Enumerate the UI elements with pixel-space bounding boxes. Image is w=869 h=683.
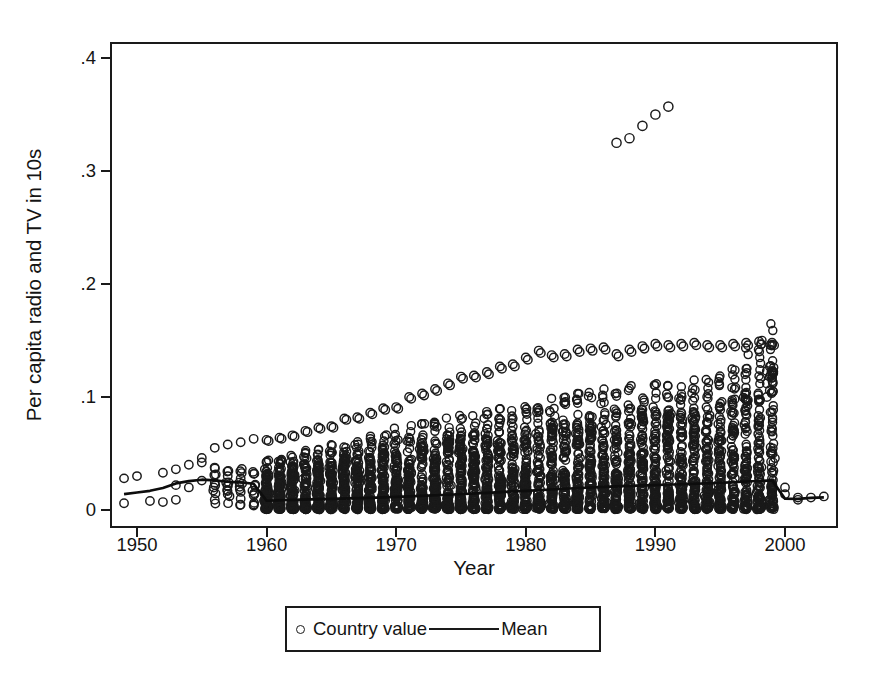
data-point-marker xyxy=(742,338,751,347)
data-point-marker xyxy=(588,347,597,356)
legend-label-country-value: Country value xyxy=(313,618,427,640)
legend-item-mean[interactable]: Mean xyxy=(427,618,547,640)
x-tick-mark xyxy=(136,528,138,537)
x-tick-label: 1980 xyxy=(505,534,546,556)
data-point-marker xyxy=(224,440,232,448)
data-point-marker xyxy=(653,342,662,351)
data-point-marker xyxy=(612,138,621,147)
data-point-marker xyxy=(547,351,556,360)
data-point-marker xyxy=(599,343,608,352)
y-tick-label: .1 xyxy=(50,386,96,408)
data-point-marker xyxy=(120,474,128,482)
data-point-marker xyxy=(485,370,494,379)
x-tick-mark xyxy=(395,528,397,537)
data-point-marker xyxy=(638,121,647,130)
data-point-marker xyxy=(522,353,531,362)
data-point-marker xyxy=(185,483,193,491)
data-point-marker xyxy=(457,372,466,381)
y-tick-mark xyxy=(101,509,110,511)
data-point-marker xyxy=(638,342,647,351)
x-tick-label: 1970 xyxy=(376,534,417,556)
data-point-marker xyxy=(236,438,244,446)
data-point-marker xyxy=(511,362,520,371)
data-point-marker xyxy=(586,344,595,353)
data-point-marker xyxy=(690,376,698,384)
x-tick-label: 2000 xyxy=(764,534,805,556)
data-point-marker xyxy=(560,350,569,359)
x-tick-mark xyxy=(525,528,527,537)
chart-legend: Country value Mean xyxy=(285,606,601,652)
data-point-marker xyxy=(442,414,450,422)
y-tick-mark xyxy=(101,283,110,285)
data-point-marker xyxy=(679,342,688,351)
data-point-marker xyxy=(664,341,673,350)
data-point-marker xyxy=(433,387,442,396)
data-point-marker xyxy=(614,352,623,361)
data-point-marker xyxy=(612,350,621,359)
data-point-marker xyxy=(420,391,429,400)
data-point-marker xyxy=(627,348,636,357)
data-point-marker xyxy=(705,343,714,352)
data-point-marker xyxy=(548,394,556,402)
plot-area xyxy=(110,42,838,528)
y-tick-label: .4 xyxy=(50,47,96,69)
x-axis-label: Year xyxy=(110,556,838,580)
data-point-marker xyxy=(731,342,740,351)
data-point-marker xyxy=(651,340,660,349)
y-tick-mark xyxy=(101,57,110,59)
data-point-marker xyxy=(689,397,697,405)
data-point-marker xyxy=(536,349,545,358)
plot-surface xyxy=(112,44,836,526)
x-tick-mark xyxy=(654,528,656,537)
data-point-marker xyxy=(159,498,167,506)
y-tick-mark xyxy=(101,396,110,398)
data-point-marker xyxy=(549,353,558,362)
data-point-marker xyxy=(729,340,738,349)
x-tick-label: 1990 xyxy=(635,534,676,556)
data-point-marker xyxy=(159,469,167,477)
data-point-marker xyxy=(446,381,455,390)
x-tick-mark xyxy=(266,528,268,537)
data-point-marker xyxy=(625,345,634,354)
data-point-marker xyxy=(472,373,481,382)
outlier-markers xyxy=(612,102,673,147)
data-point-marker xyxy=(524,355,533,364)
data-point-marker xyxy=(702,403,710,411)
y-tick-label: 0 xyxy=(50,499,96,521)
data-point-marker xyxy=(718,343,727,352)
data-point-marker xyxy=(575,348,584,357)
data-point-marker xyxy=(573,345,582,354)
data-point-marker xyxy=(664,382,672,390)
y-axis-label-text: Per capita radio and TV in 10s xyxy=(22,149,46,421)
data-point-marker xyxy=(120,499,128,507)
data-point-marker xyxy=(562,352,571,361)
y-tick-label: .2 xyxy=(50,273,96,295)
y-tick-label: .3 xyxy=(50,160,96,182)
data-point-marker xyxy=(498,364,507,373)
data-point-marker xyxy=(133,472,141,480)
x-tick-label: 1950 xyxy=(116,534,157,556)
data-point-marker xyxy=(236,501,244,509)
legend-item-country-value[interactable]: Country value xyxy=(287,618,427,640)
data-point-marker xyxy=(469,412,477,420)
data-point-marker xyxy=(534,346,543,355)
legend-label-mean: Mean xyxy=(501,618,547,640)
data-point-marker xyxy=(692,341,701,350)
data-point-marker xyxy=(407,422,415,430)
data-point-marker xyxy=(407,394,416,403)
y-tick-mark xyxy=(101,170,110,172)
data-point-marker xyxy=(496,362,505,371)
data-point-marker xyxy=(651,110,660,119)
data-point-marker xyxy=(756,354,764,362)
data-point-marker xyxy=(716,341,725,350)
data-point-marker xyxy=(652,394,660,402)
data-point-marker xyxy=(574,411,582,419)
data-point-marker xyxy=(508,407,516,415)
x-tick-label: 1960 xyxy=(246,534,287,556)
chart-figure: Per capita radio and TV in 10s 0.1.2.3.4… xyxy=(0,0,869,683)
data-point-marker xyxy=(459,374,468,383)
y-axis-label: Per capita radio and TV in 10s xyxy=(14,0,54,42)
data-point-marker xyxy=(172,465,180,473)
open-circle-icon xyxy=(287,625,313,634)
x-tick-mark xyxy=(784,528,786,537)
